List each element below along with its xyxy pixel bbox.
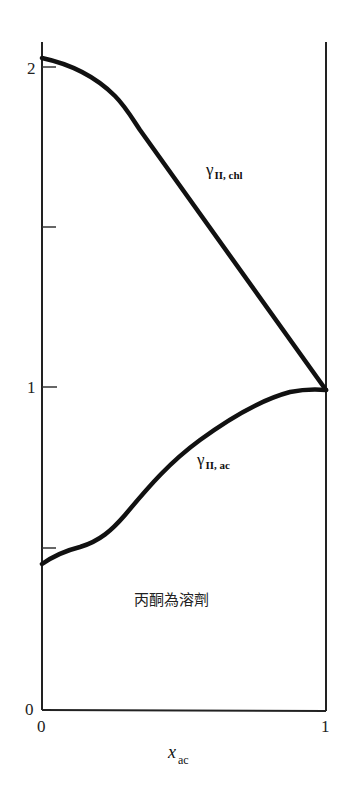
y-tick-label-1: 1: [27, 378, 36, 397]
gamma-ac-curve: [42, 389, 326, 564]
gamma-ac-label: γII, ac: [196, 450, 230, 471]
activity-coefficient-chart: 2 1 0 0 1 xac γII, chl γII, ac 丙酮為溶劑: [0, 0, 354, 800]
x-axis-label: xac: [167, 742, 189, 767]
y-tick-label-2: 2: [27, 59, 36, 78]
gamma-chl-label: γII, chl: [205, 160, 243, 181]
x-tick-label-0: 0: [37, 717, 46, 736]
solvent-annotation: 丙酮為溶劑: [134, 592, 209, 608]
gamma-chl-curve: [42, 58, 326, 390]
bottom-axis: [42, 710, 326, 711]
y-tick-label-0: 0: [25, 700, 34, 719]
x-tick-label-1: 1: [321, 717, 330, 736]
